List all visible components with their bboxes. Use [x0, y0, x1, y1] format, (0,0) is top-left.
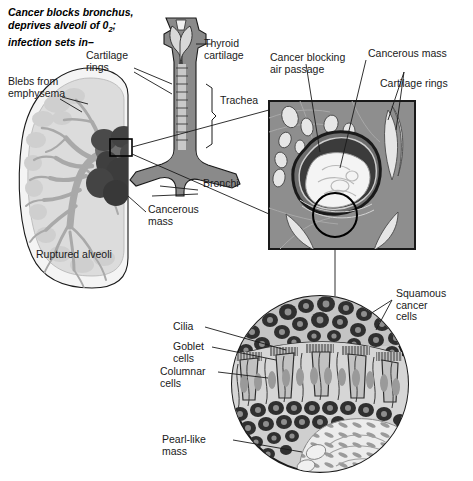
- title-line-2-end: ;: [113, 19, 117, 31]
- label-squamous: Squamous cancer cells: [396, 288, 446, 323]
- label-cancerous-mass-section: Cancerous mass: [368, 48, 447, 60]
- label-thyroid-cartilage: Thyroid cartilage: [204, 38, 244, 61]
- leader-cartilage-rings-2: [134, 72, 172, 94]
- label-ruptured-alveoli: Ruptured alveoli: [36, 249, 112, 261]
- figure-title: Cancer blocks bronchus,deprives alveoli …: [8, 6, 133, 49]
- histology-content: [232, 296, 412, 474]
- leader-cartilage-rings-1: [134, 68, 172, 84]
- label-cilia: Cilia: [173, 321, 193, 333]
- label-cancerous-mass-lung: Cancerous mass: [148, 204, 199, 227]
- lung-cancer-illustration: Cancer blocks bronchus,deprives alveoli …: [0, 0, 473, 481]
- label-bronchi: Bronchi: [203, 178, 239, 190]
- label-blebs: Blebs from emphysema: [8, 76, 65, 99]
- label-cancer-blocking: Cancer blocking air passage: [270, 52, 345, 75]
- label-goblet: Goblet cells: [173, 341, 204, 364]
- leader-cancerous-mass-lung: [128, 196, 146, 212]
- title-line-1: Cancer blocks bronchus,: [8, 6, 133, 18]
- illustration-canvas: [0, 0, 473, 481]
- leader-bronchi-2: [152, 194, 198, 196]
- label-cartilage-rings-right: Cartilage rings: [380, 78, 448, 90]
- label-cartilage-rings-left: Cartilage rings: [86, 50, 128, 73]
- label-columnar: Columnar cells: [160, 366, 206, 389]
- label-trachea: Trachea: [220, 95, 258, 107]
- thyroid-notch: [176, 20, 186, 30]
- title-line-3: infection sets in–: [8, 36, 94, 48]
- bronchus-cross-section: [269, 101, 415, 250]
- title-line-2: deprives alveoli of 0: [8, 19, 108, 31]
- histology-circle: [232, 296, 412, 474]
- trachea-brace: [206, 84, 216, 148]
- connector-lung-to-section: [132, 110, 269, 147]
- tracheal-lumen: [178, 64, 186, 150]
- label-pearl: Pearl-like mass: [162, 434, 206, 457]
